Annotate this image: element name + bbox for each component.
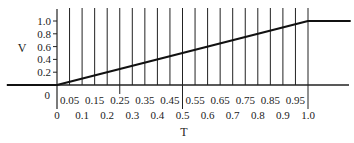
x-tick-label-lower: 0.1 [75,109,89,121]
x-tick-label-lower: 0.6 [201,109,215,121]
y-ticks: 0.20.40.60.81.0 [37,15,57,78]
origin-label: 0 [45,89,51,101]
x-tick-label-lower: 0 [54,109,60,121]
x-axis-label: T [180,125,188,139]
x-tick-label-upper: 0.05 [60,94,80,106]
v-vs-t-chart: 0.20.40.60.81.0 0.050.150.250.350.450.55… [0,0,354,143]
x-tick-label-lower: 0.4 [151,109,165,121]
x-tick-label-lower: 0.8 [251,109,265,121]
x-tick-label-upper: 0.55 [185,94,205,106]
x-tick-label-upper: 0.25 [110,94,130,106]
x-tick-label-upper: 0.15 [85,94,105,106]
x-tick-label-upper: 0.35 [135,94,155,106]
x-tick-label-lower: 0.2 [100,109,114,121]
x-tick-label-upper: 0.75 [236,94,256,106]
x-tick-label-upper: 0.45 [160,94,180,106]
x-tick-label-upper: 0.65 [211,94,231,106]
series-line [7,21,351,85]
y-tick-label: 0.2 [37,66,51,78]
y-tick-label: 1.0 [37,15,51,27]
x-tick-label-lower: 0.5 [176,109,190,121]
y-axis-label: V [18,41,27,55]
series [7,21,351,85]
x-tick-label-lower: 0.9 [276,109,290,121]
x-tick-label-lower: 1.0 [301,109,315,121]
y-tick-label: 0.6 [37,41,51,53]
x-tick-label-upper: 0.85 [261,94,281,106]
x-tick-label-upper: 0.95 [286,94,306,106]
x-ticks: 0.050.150.250.350.450.550.650.750.850.95… [54,94,315,121]
x-tick-label-lower: 0.3 [125,109,139,121]
x-tick-label-lower: 0.7 [226,109,240,121]
y-tick-label: 0.8 [37,28,51,40]
y-tick-label: 0.4 [37,53,51,65]
